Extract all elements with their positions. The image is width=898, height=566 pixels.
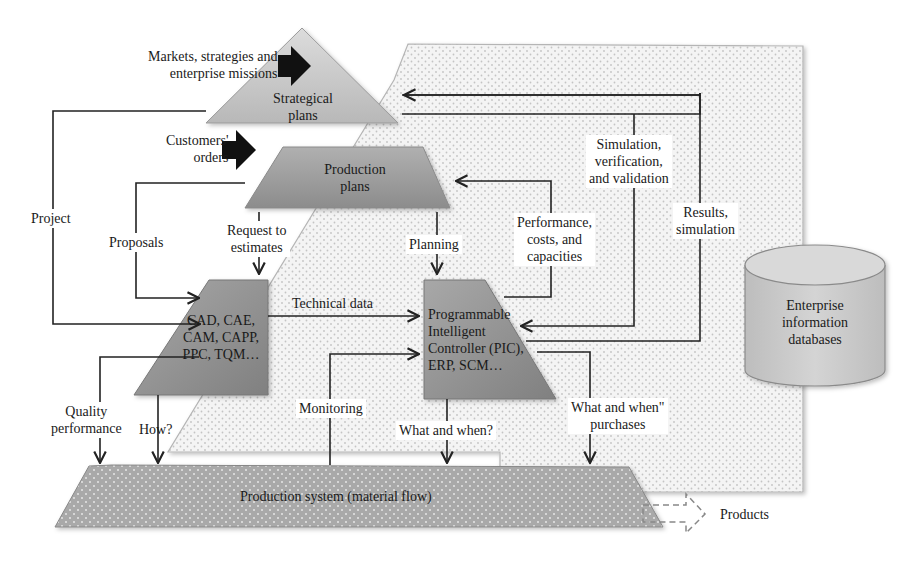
edge-label-project: Project <box>28 209 74 228</box>
edge-label-what-when: What and when? <box>396 421 496 440</box>
edge-label-planning: Planning <box>406 235 462 254</box>
cad-label: CAD, CAE, CAM, CAPP, PPC, TQM… <box>176 312 266 363</box>
customers-input-label: Customers' orders <box>163 131 231 167</box>
production-plans-label: Production plans <box>310 161 400 195</box>
products-output-label: Products <box>717 505 772 524</box>
edge-label-quality: Quality performance <box>48 402 125 438</box>
edge-label-proposals: Proposals <box>106 233 166 252</box>
pic-label: Programmable Intelligent Controller (PIC… <box>428 306 524 374</box>
edge-label-what-when-purchases: What and when" purchases <box>568 398 668 434</box>
edge-label-monitoring: Monitoring <box>296 399 366 418</box>
edge-label-performance: Performance, costs, and capacities <box>514 213 595 266</box>
diagram-canvas <box>0 0 898 566</box>
edge-label-request: Request to estimates <box>224 221 290 257</box>
edge-label-results: Results, simulation <box>673 203 738 239</box>
production-system-label: Production system (material flow) <box>240 488 432 505</box>
markets-input-label: Markets, strategies and enterprise missi… <box>145 47 280 83</box>
edge-label-technical-data: Technical data <box>289 294 376 313</box>
database-label: Enterprise information databases <box>770 297 860 348</box>
strategic-plans-label: Strategical plans <box>268 90 338 124</box>
edge-label-simulation: Simulation, verification, and validation <box>586 135 672 188</box>
edge-label-how: How? <box>136 420 175 439</box>
